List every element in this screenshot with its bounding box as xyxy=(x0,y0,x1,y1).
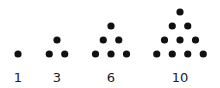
dot xyxy=(53,36,60,43)
triangular-numbers-diagram: 13610 xyxy=(0,0,220,88)
dot xyxy=(192,36,199,43)
dot xyxy=(92,50,99,57)
figure-6: 6 xyxy=(92,22,130,85)
dot xyxy=(61,50,68,57)
dot xyxy=(176,8,183,15)
dot xyxy=(100,36,107,43)
figure-1: 1 xyxy=(14,50,22,85)
figure-3: 3 xyxy=(46,36,69,85)
figure-label: 6 xyxy=(107,70,115,85)
dot xyxy=(161,36,168,43)
dot xyxy=(107,50,114,57)
figure-label: 10 xyxy=(172,70,189,85)
dot xyxy=(169,22,176,29)
dot xyxy=(176,36,183,43)
dot xyxy=(46,50,53,57)
figure-label: 3 xyxy=(53,70,61,85)
dot xyxy=(184,50,191,57)
figure-label: 1 xyxy=(14,70,22,85)
dot xyxy=(123,50,130,57)
dot xyxy=(107,22,114,29)
dot xyxy=(115,36,122,43)
dot xyxy=(200,50,207,57)
dot xyxy=(169,50,176,57)
dot xyxy=(153,50,160,57)
figure-10: 10 xyxy=(153,8,207,85)
dot xyxy=(14,50,21,57)
dot xyxy=(184,22,191,29)
